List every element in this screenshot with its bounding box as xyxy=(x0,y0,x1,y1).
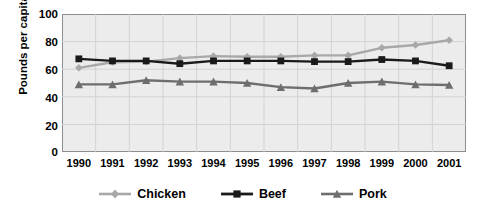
legend-marker-pork-icon xyxy=(320,187,354,201)
x-tick-label: 1993 xyxy=(162,157,198,169)
x-tick-label: 2000 xyxy=(398,157,434,169)
marker-beef xyxy=(176,60,183,67)
y-tick-label: 40 xyxy=(24,93,58,104)
legend-marker-beef-icon xyxy=(220,187,254,201)
legend-entry-chicken: Chicken xyxy=(98,187,186,201)
marker-chicken xyxy=(311,52,319,60)
x-tick-label: 1999 xyxy=(364,157,400,169)
x-tick-label: 1992 xyxy=(128,157,164,169)
x-tick-label: 1996 xyxy=(263,157,299,169)
legend-entry-beef: Beef xyxy=(220,187,286,201)
x-tick-label: 1990 xyxy=(61,157,97,169)
legend-label-beef: Beef xyxy=(259,188,286,201)
legend-marker-chicken-icon xyxy=(98,187,132,201)
marker-chicken xyxy=(445,36,453,44)
x-tick-label: 1998 xyxy=(330,157,366,169)
marker-beef xyxy=(378,56,385,63)
marker-beef xyxy=(210,58,217,65)
marker-beef xyxy=(75,55,82,62)
y-tick-label: 20 xyxy=(24,121,58,132)
plot-canvas xyxy=(62,14,466,152)
x-tick-label: 1997 xyxy=(297,157,333,169)
chart-legend: Chicken Beef Pork xyxy=(0,182,485,206)
x-tick-label: 1991 xyxy=(95,157,131,169)
marker-beef xyxy=(143,58,150,65)
x-tick-label: 1995 xyxy=(229,157,265,169)
marker-beef xyxy=(109,58,116,65)
legend-entry-pork: Pork xyxy=(320,187,387,201)
y-tick-label: 0 xyxy=(24,147,58,158)
y-tick-label: 60 xyxy=(24,65,58,76)
x-tick-label: 2001 xyxy=(431,157,467,169)
y-tick-label: 100 xyxy=(24,9,58,20)
marker-chicken xyxy=(75,64,83,72)
x-tick-label: 1994 xyxy=(196,157,232,169)
marker-beef xyxy=(244,58,251,65)
marker-beef xyxy=(412,58,419,65)
marker-beef xyxy=(446,62,453,69)
marker-chicken xyxy=(412,41,420,49)
y-tick-label: 80 xyxy=(24,37,58,48)
marker-chicken xyxy=(378,44,386,52)
chart-container: Pounds per capita 100 80 60 40 20 0 1990… xyxy=(0,0,485,213)
marker-beef xyxy=(311,58,318,65)
marker-beef xyxy=(345,58,352,65)
legend-label-chicken: Chicken xyxy=(137,188,186,201)
marker-beef xyxy=(277,58,284,65)
marker-chicken xyxy=(344,52,352,60)
legend-label-pork: Pork xyxy=(359,188,387,201)
